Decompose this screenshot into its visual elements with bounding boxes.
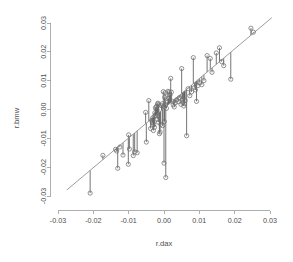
- data-point-group: [88, 26, 255, 195]
- x-tick-label: 0.00: [157, 216, 171, 225]
- y-tick-label: -0.03: [39, 188, 48, 204]
- y-tick-label: 0.03: [39, 16, 48, 30]
- x-tick-label: -0.02: [85, 216, 101, 225]
- regression-line: [67, 18, 272, 190]
- x-tick-label: -0.03: [50, 216, 66, 225]
- x-tick-label: -0.01: [120, 216, 136, 225]
- regression-line-group: [67, 18, 272, 190]
- y-tick-label: -0.02: [39, 159, 48, 175]
- x-tick-label: 0.01: [192, 216, 206, 225]
- x-tick-label: 0.02: [228, 216, 242, 225]
- scatter-plot-figure: -0.03-0.02-0.010.000.010.020.03 -0.03-0.…: [0, 0, 293, 262]
- x-tick-label: 0.03: [263, 216, 277, 225]
- y-axis: -0.03-0.02-0.010.000.010.020.03: [39, 16, 51, 204]
- y-tick-label: -0.01: [39, 130, 48, 146]
- x-axis-title: r.dax: [156, 239, 173, 248]
- plot-canvas: -0.03-0.02-0.010.000.010.020.03 -0.03-0.…: [0, 0, 293, 262]
- residual-segment-group: [90, 28, 253, 193]
- y-tick-label: 0.00: [39, 103, 48, 117]
- y-tick-label: 0.02: [39, 45, 48, 59]
- x-axis: -0.03-0.02-0.010.000.010.020.03: [50, 211, 277, 226]
- y-tick-label: 0.01: [39, 74, 48, 88]
- y-axis-title: r.bmw: [12, 107, 21, 128]
